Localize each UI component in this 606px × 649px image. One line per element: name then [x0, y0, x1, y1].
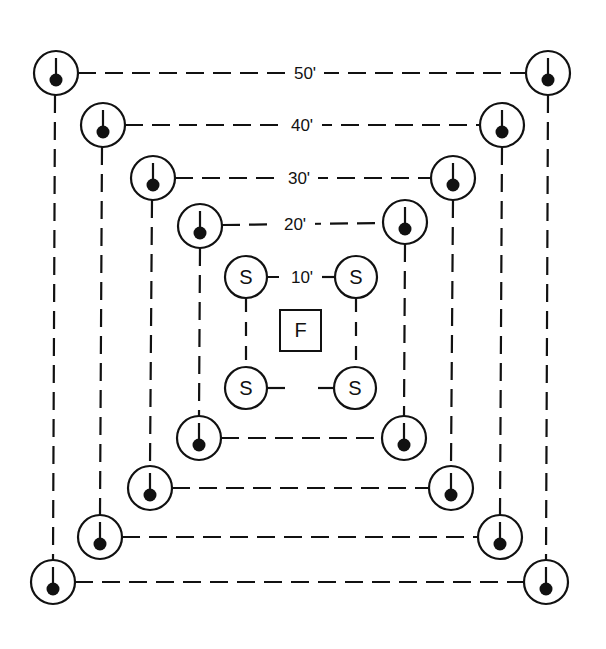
- ring-20-left-line: [199, 248, 200, 416]
- s-node-tr: S: [335, 256, 377, 298]
- ring-40-left-line: [100, 147, 102, 515]
- ring-30-left-line: [150, 200, 152, 466]
- stake-icon-30-tl: [131, 156, 175, 200]
- s-node-label: S: [239, 266, 252, 288]
- stake-icon-50-tl: [34, 51, 78, 95]
- ring-50-right-line: [546, 95, 548, 560]
- s-node-label: S: [349, 266, 362, 288]
- ring-30-label: 30': [288, 169, 310, 188]
- ring-50-label: 50': [294, 64, 316, 83]
- stake-icon-50-bl: [31, 560, 75, 604]
- stake-icon-50-br: [524, 560, 568, 604]
- s-node-bl: S: [225, 367, 267, 409]
- stake-icon-50-tr: [526, 51, 570, 95]
- stake-icon-20-tl: [178, 204, 222, 248]
- ring-40-label: 40': [291, 116, 313, 135]
- stake-icon-40-tr: [480, 103, 524, 147]
- s-node-tl: S: [225, 256, 267, 298]
- s-node-br: S: [334, 367, 376, 409]
- stake-icon-20-bl: [177, 416, 221, 460]
- center-label: F: [294, 319, 306, 341]
- stake-icon-40-br: [478, 515, 522, 559]
- sampling-grid-diagram: 50' 40' 30' 20' 10': [0, 0, 606, 649]
- ring-50-left-line: [53, 95, 55, 560]
- ring-20-label: 20': [284, 215, 306, 234]
- stake-icon-30-bl: [128, 466, 172, 510]
- center-f-box: F: [280, 310, 321, 351]
- stake-icon-30-br: [429, 466, 473, 510]
- ring-30-right-line: [451, 200, 453, 466]
- s-node-label: S: [239, 377, 252, 399]
- stake-icon-40-bl: [78, 515, 122, 559]
- ring-10-label: 10': [291, 268, 313, 287]
- stake-icon-20-tr: [383, 200, 427, 244]
- ring-20-right-line: [404, 244, 405, 416]
- stake-icon-30-tr: [431, 156, 475, 200]
- stake-icon-40-tl: [81, 103, 125, 147]
- s-node-label: S: [348, 377, 361, 399]
- ring-40-right-line: [500, 147, 502, 515]
- stake-icon-20-br: [382, 416, 426, 460]
